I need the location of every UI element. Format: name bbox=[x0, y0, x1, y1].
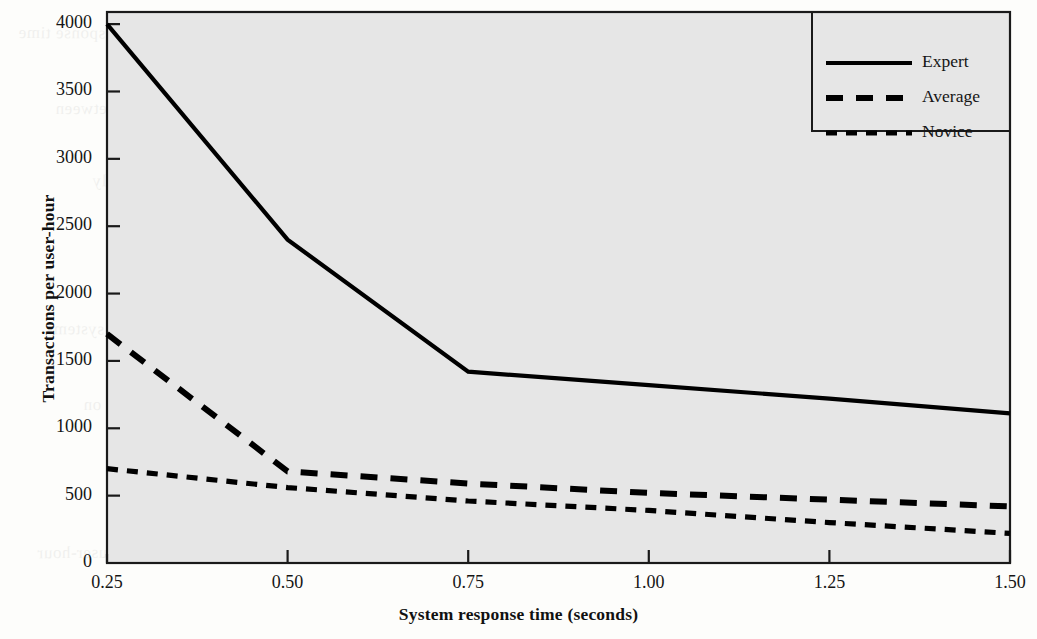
x-tick-label: 1.00 bbox=[599, 572, 699, 593]
y-tick-label: 0 bbox=[0, 551, 92, 572]
x-axis-title: System response time (seconds) bbox=[0, 604, 1037, 625]
y-tick-label: 2500 bbox=[0, 214, 92, 235]
x-tick-label: 0.25 bbox=[57, 572, 157, 593]
x-tick-label: 1.25 bbox=[779, 572, 879, 593]
y-tick-label: 1500 bbox=[0, 349, 92, 370]
x-tick-label: 0.75 bbox=[418, 572, 518, 593]
y-tick-label: 1000 bbox=[0, 416, 92, 437]
y-tick-label: 500 bbox=[0, 484, 92, 505]
x-tick-label: 1.50 bbox=[960, 572, 1037, 593]
legend-label-average: Average bbox=[922, 86, 980, 107]
y-tick-label: 3000 bbox=[0, 147, 92, 168]
y-tick-label: 2000 bbox=[0, 282, 92, 303]
legend-label-novice: Novice bbox=[922, 121, 973, 142]
chart-plot-area bbox=[0, 0, 1037, 639]
y-tick-label: 3500 bbox=[0, 79, 92, 100]
legend-label-expert: Expert bbox=[922, 51, 969, 72]
plot-background bbox=[107, 12, 1010, 563]
figure-line-chart: Transactions per user-hour System respon… bbox=[0, 0, 1037, 639]
y-tick-label: 4000 bbox=[0, 12, 92, 33]
x-tick-label: 0.50 bbox=[238, 572, 338, 593]
